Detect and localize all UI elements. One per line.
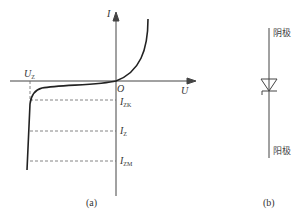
- anode-label: 阳极: [273, 144, 291, 157]
- iv-curve: [27, 19, 148, 170]
- diagram-canvas: [0, 0, 308, 219]
- iz-label: IZ: [120, 125, 127, 137]
- dashed-guides: [30, 81, 116, 161]
- izk-label: IZK: [120, 96, 131, 108]
- zener-voltage-label: UZ: [24, 68, 35, 80]
- cathode-label: 阴极: [273, 26, 291, 39]
- origin-label: O: [117, 83, 124, 94]
- zener-diode-symbol: [261, 28, 277, 158]
- izm-label: IZM: [120, 155, 132, 167]
- caption-b: (b): [263, 197, 275, 208]
- caption-a: (a): [86, 197, 97, 208]
- y-axis-label: I: [107, 8, 110, 19]
- x-axis-label: U: [181, 85, 188, 96]
- y-axis: [113, 12, 119, 196]
